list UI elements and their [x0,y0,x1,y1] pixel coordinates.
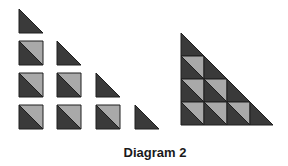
dark-triangle-half [181,33,204,56]
diagram-canvas [0,0,288,166]
dark-triangle-piece [96,73,120,97]
left-staircase-figure [19,9,159,129]
right-assembled-triangle [181,33,273,125]
dark-triangle-half [227,79,250,102]
dark-triangle-half [250,102,273,125]
dark-triangle-piece [19,9,43,33]
dark-triangle-piece [57,41,81,65]
dark-triangle-piece [135,105,159,129]
dark-triangle-half [204,56,227,79]
diagram-caption: Diagram 2 [0,145,288,160]
